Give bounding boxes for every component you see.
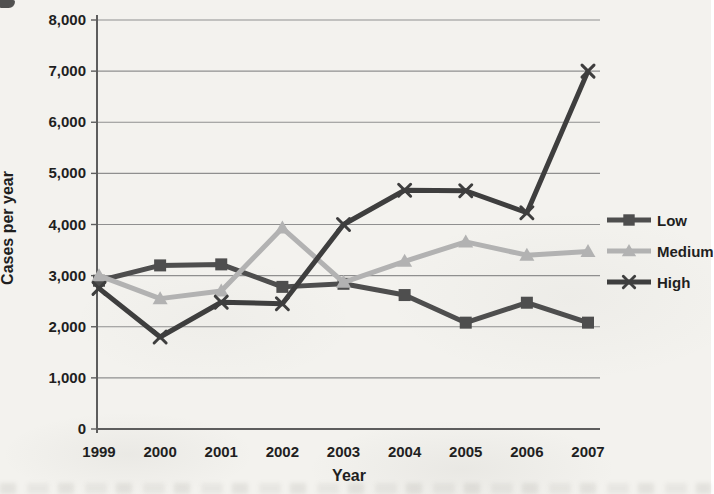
x-tick-label: 1999 (82, 443, 115, 460)
series-markers-high (93, 65, 594, 343)
series-line-low (99, 264, 588, 322)
legend-item-medium: Medium (606, 240, 714, 262)
square-marker-icon (215, 258, 227, 270)
y-tick-label: 5,000 (48, 164, 86, 181)
gridlines: 01,0002,0003,0004,0005,0006,0007,0008,00… (48, 11, 600, 437)
x-tick-label: 2004 (388, 443, 422, 460)
y-tick-label: 6,000 (48, 113, 86, 130)
triangle-marker-icon (92, 268, 107, 281)
x-tick-label: 2003 (327, 443, 360, 460)
triangle-marker-icon (275, 221, 290, 234)
x-axis-title: Year (332, 467, 366, 484)
scan-bleed-noise (0, 483, 711, 494)
square-marker-icon (582, 317, 594, 329)
square-marker-icon (276, 281, 288, 293)
square-marker-icon (521, 297, 533, 309)
y-tick-label: 2,000 (48, 318, 86, 335)
y-tick-label: 1,000 (48, 369, 86, 386)
square-marker-icon (399, 289, 411, 301)
low-series-swatch-icon (606, 212, 652, 228)
y-tick-label: 8,000 (48, 11, 86, 28)
high-series-swatch-icon (606, 274, 652, 290)
x-tick-labels: 199920002001200220032004200520062007 (82, 443, 604, 460)
series-markers-low (93, 258, 594, 328)
series-markers-medium (92, 221, 596, 305)
y-axis-title: Cases per year (0, 171, 16, 285)
y-tick-label: 4,000 (48, 216, 86, 233)
legend: Low Medium High (606, 209, 714, 302)
x-tick-label: 2000 (143, 443, 176, 460)
x-tick-label: 2007 (571, 443, 604, 460)
legend-label-medium: Medium (657, 243, 714, 260)
x-tick-label: 2006 (510, 443, 543, 460)
x-tick-label: 2001 (205, 443, 238, 460)
legend-item-high: High (606, 271, 714, 293)
x-tick-label: 2002 (266, 443, 299, 460)
square-marker-icon (460, 317, 472, 329)
y-tick-label: 0 (78, 420, 86, 437)
square-marker-icon (623, 214, 634, 225)
legend-item-low: Low (606, 209, 714, 231)
x-tick-label: 2005 (449, 443, 482, 460)
square-marker-icon (154, 259, 166, 271)
y-tick-label: 7,000 (48, 62, 86, 79)
legend-label-low: Low (657, 212, 687, 229)
y-tick-label: 3,000 (48, 267, 86, 284)
medium-series-swatch-icon (606, 243, 652, 259)
legend-label-high: High (657, 274, 690, 291)
